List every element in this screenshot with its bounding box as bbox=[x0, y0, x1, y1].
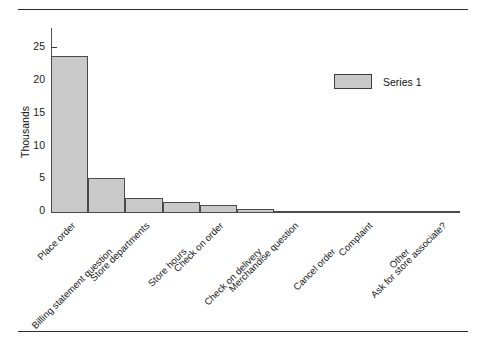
legend-label-series-1: Series 1 bbox=[383, 76, 422, 88]
y-axis-tick-label-0: 0 bbox=[8, 205, 45, 216]
plot-area bbox=[51, 28, 461, 212]
x-axis-label: Check on order bbox=[77, 220, 225, 346]
y-axis-tick-label-25: 25 bbox=[8, 41, 45, 52]
bottom-divider-rule bbox=[18, 331, 468, 332]
y-axis-title: Thousands bbox=[19, 77, 31, 187]
chart-figure: Thousands 0510152025 Series 1 Place orde… bbox=[0, 0, 481, 346]
x-axis-label: Complaint bbox=[226, 220, 374, 346]
chart-legend: Series 1 bbox=[334, 74, 422, 89]
bar bbox=[348, 211, 385, 213]
bar bbox=[51, 56, 88, 213]
bar bbox=[423, 211, 460, 213]
bar bbox=[311, 211, 348, 213]
bar bbox=[200, 205, 237, 213]
bar bbox=[88, 178, 125, 213]
x-axis-label: Ask for store associate? bbox=[300, 220, 448, 346]
x-axis-label: Merchandise question bbox=[152, 220, 300, 346]
bar bbox=[274, 211, 311, 213]
bar bbox=[237, 209, 274, 213]
bar bbox=[386, 211, 423, 213]
legend-swatch-series-1 bbox=[334, 74, 372, 89]
top-divider-rule bbox=[18, 9, 468, 10]
bar bbox=[125, 198, 162, 213]
y-axis-tick-label-wrap-0: 0 bbox=[8, 205, 45, 217]
x-axis-label: Store departments bbox=[3, 220, 151, 346]
y-axis-tick-label-wrap-25: 25 bbox=[8, 41, 45, 53]
x-axis-label: Place order bbox=[0, 220, 77, 346]
bar bbox=[163, 202, 200, 213]
